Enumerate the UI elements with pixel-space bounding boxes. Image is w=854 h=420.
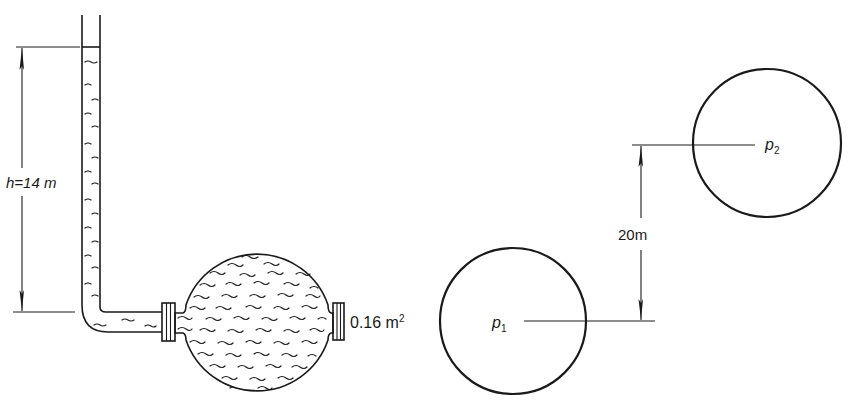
pressure-subscript: 2 [774, 145, 780, 156]
elbow-outer [82, 305, 162, 332]
tube-liquid-waves [85, 61, 156, 327]
area-label-exponent: 2 [399, 313, 405, 324]
right-flange [333, 303, 344, 340]
pressure-symbol: p [492, 314, 501, 331]
vessel-1-label: p1 [492, 314, 506, 334]
area-label: 0.16 m2 [350, 313, 404, 332]
elevation-label-text: 20m [618, 226, 647, 243]
pressure-subscript: 1 [501, 323, 507, 334]
height-label: h=14 m [6, 174, 56, 191]
sphere-vessel [175, 254, 333, 391]
left-panel [13, 15, 344, 391]
left-flange [162, 303, 175, 341]
vessel-2-label: p2 [765, 136, 779, 156]
area-label-value: 0.16 m [350, 314, 399, 331]
elevation-label: 20m [618, 226, 647, 243]
height-label-text: h=14 m [6, 174, 56, 191]
pressure-symbol: p [765, 136, 774, 153]
elbow-inner [100, 307, 162, 312]
figure-canvas: h=14 m 0.16 m2 p1 p2 20m [0, 0, 854, 420]
sphere-liquid-waves [178, 256, 326, 390]
